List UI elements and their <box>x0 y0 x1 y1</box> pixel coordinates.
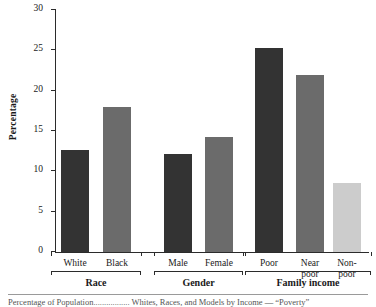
group-label-family-income: Family income <box>245 277 371 288</box>
y-tick-5: 5 <box>51 211 56 212</box>
y-tick-label-25: 25 <box>9 42 43 55</box>
y-tick-label-0: 0 <box>9 244 43 257</box>
group-bracket-gender <box>154 271 243 275</box>
group-bracket-race <box>51 271 141 275</box>
bar-female <box>205 137 233 252</box>
category-label-male: Male <box>156 258 200 269</box>
y-tick-30: 30 <box>51 9 56 10</box>
bar-chart-figure: Percentage 051015202530 WhiteBlackMaleFe… <box>0 0 376 307</box>
category-label-white: White <box>53 258 97 269</box>
bar-black <box>103 107 131 252</box>
y-axis-line <box>55 10 56 253</box>
figure-caption: Percentage of Population................… <box>8 297 368 307</box>
group-bracket-family-income <box>245 271 371 275</box>
bar-male <box>164 154 192 252</box>
category-label-black: Black <box>95 258 139 269</box>
group-tick-family-income-end <box>371 252 372 256</box>
y-tick-20: 20 <box>51 90 56 91</box>
group-tick-gender-end <box>243 252 244 256</box>
bar-near-poor <box>296 75 324 252</box>
y-tick-label-30: 30 <box>9 2 43 15</box>
group-tick-race-start <box>51 252 52 256</box>
group-tick-gender-start <box>154 252 155 256</box>
y-tick-label-5: 5 <box>9 204 43 217</box>
y-tick-label-15: 15 <box>9 123 43 136</box>
y-tick-label-20: 20 <box>9 83 43 96</box>
y-tick-25: 25 <box>51 49 56 50</box>
group-label-gender: Gender <box>154 277 243 288</box>
category-label-non-poor: Non- poor <box>325 258 369 279</box>
category-label-poor: Poor <box>247 258 291 269</box>
plot-area: 051015202530 <box>56 10 368 252</box>
caption-divider <box>8 294 368 295</box>
bar-non-poor <box>333 183 361 252</box>
category-label-female: Female <box>197 258 241 269</box>
group-tick-family-income-start <box>245 252 246 256</box>
group-label-race: Race <box>51 277 141 288</box>
y-tick-15: 15 <box>51 130 56 131</box>
group-tick-race-end <box>141 252 142 256</box>
bar-white <box>61 150 89 252</box>
x-axis-line <box>56 252 369 253</box>
bar-poor <box>255 48 283 252</box>
y-tick-10: 10 <box>51 170 56 171</box>
y-tick-label-10: 10 <box>9 163 43 176</box>
